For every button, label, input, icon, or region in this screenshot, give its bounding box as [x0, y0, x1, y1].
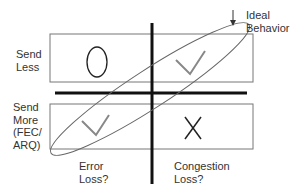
- label-line: Loss?: [174, 173, 230, 186]
- column-label-error-loss: Error Loss?: [79, 160, 108, 185]
- row-label-send-less: Send Less: [16, 48, 42, 73]
- label-line: Send: [13, 101, 42, 114]
- label-line: Ideal: [246, 9, 289, 22]
- circle-icon: [87, 47, 107, 77]
- label-line: ARQ): [13, 139, 42, 152]
- ideal-behavior-annotation: Ideal Behavior: [246, 9, 289, 34]
- label-line: More: [13, 114, 42, 127]
- label-line: Behavior: [246, 22, 289, 35]
- row-label-send-more: Send More (FEC/ ARQ): [13, 101, 42, 151]
- label-line: Loss?: [79, 173, 108, 186]
- column-label-congestion-loss: Congestion Loss?: [174, 160, 230, 185]
- checkmark-icon: [82, 115, 109, 135]
- checkmark-icon: [176, 51, 205, 74]
- label-line: Error: [79, 160, 108, 173]
- label-line: Less: [16, 61, 42, 74]
- label-line: Send: [16, 48, 42, 61]
- ideal-behavior-ellipse: [41, 9, 260, 169]
- label-line: Congestion: [174, 160, 230, 173]
- label-line: (FEC/: [13, 126, 42, 139]
